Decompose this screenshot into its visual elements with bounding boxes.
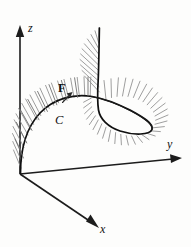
vector-hair — [77, 77, 79, 96]
vector-hair — [103, 127, 106, 138]
curve-label: C — [55, 114, 63, 127]
axis-x-arrowhead — [86, 215, 99, 229]
vector-hair — [87, 111, 94, 119]
vector-hair — [108, 130, 110, 141]
axis-z-arrowhead — [16, 25, 24, 37]
figure-canvas — [0, 0, 191, 247]
vector-hair — [117, 78, 118, 97]
vector-hair — [142, 135, 149, 140]
vector-hair — [155, 109, 167, 116]
vector-hair — [89, 116, 95, 125]
vector-hair — [20, 110, 32, 131]
vector-hair — [87, 39, 98, 54]
vector-hair — [126, 136, 128, 145]
vector-hair — [90, 77, 91, 96]
vector-hair — [97, 124, 101, 134]
vector-hair — [111, 79, 112, 98]
vector-hair — [121, 134, 122, 144]
vector-hair — [128, 79, 133, 96]
vector-hair — [84, 98, 92, 102]
vector-hair — [104, 81, 106, 100]
vector-hair — [156, 115, 168, 120]
vector-hair — [84, 44, 98, 59]
axis-y-line — [20, 159, 173, 174]
vector-field-hairs-front — [15, 77, 88, 158]
axis-label-x: x — [100, 223, 105, 235]
vector-hair — [123, 78, 126, 96]
vector-hair — [93, 120, 98, 130]
axis-y — [20, 154, 182, 174]
axis-label-y: y — [167, 138, 172, 150]
vector-hair — [85, 107, 92, 114]
vector-hair — [84, 77, 85, 96]
vector-field-hairs-back — [13, 28, 100, 168]
vector-hair — [133, 81, 140, 97]
axis-label-z: z — [28, 22, 33, 34]
vector-field-figure: z y x F C — [0, 0, 191, 247]
axis-x — [20, 174, 99, 228]
vector-hair — [132, 136, 136, 144]
vector-hair — [75, 78, 78, 98]
vector-hair — [153, 127, 164, 128]
vector-hair — [155, 121, 167, 124]
vector-hair — [115, 133, 116, 144]
axis-y-arrowhead — [170, 154, 182, 163]
vector-hair — [95, 31, 99, 43]
vector-hair — [138, 84, 146, 99]
axis-x-line — [20, 174, 91, 222]
vector-hair — [16, 122, 26, 143]
vector-hair — [26, 99, 37, 120]
vector-field-label: F — [58, 82, 66, 95]
vector-hair — [137, 136, 142, 143]
vector-hair — [84, 102, 92, 108]
